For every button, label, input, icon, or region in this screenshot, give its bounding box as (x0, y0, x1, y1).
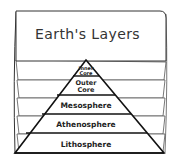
earth-layers-diagram: Earth's Layers Inner Core Outer Core Mes… (0, 0, 172, 164)
layer-athenosphere: Athenosphere (56, 120, 115, 129)
layer-lithosphere: Lithosphere (61, 140, 111, 149)
layer-mesosphere: Mesosphere (60, 101, 111, 110)
layer-inner-core-line2: Core (80, 70, 94, 76)
layer-outer-core-line2: Core (78, 86, 95, 94)
diagram-title: Earth's Layers (35, 26, 140, 42)
